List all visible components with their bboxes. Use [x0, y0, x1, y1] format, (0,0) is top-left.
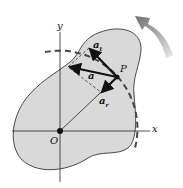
rigid-body — [13, 29, 141, 170]
tangential-label: at — [93, 40, 102, 52]
diagram-graphic — [0, 0, 183, 188]
point-p — [115, 75, 120, 80]
point-label: P — [120, 64, 127, 74]
origin-point — [57, 128, 63, 134]
normal-label: ar — [99, 96, 109, 108]
x-axis-label: x — [152, 124, 158, 134]
y-axis-label: y — [57, 21, 63, 31]
rigid-body-diagram: y x O P a at ar — [0, 0, 183, 188]
accel-label: a — [88, 71, 94, 81]
origin-label: O — [50, 136, 58, 146]
